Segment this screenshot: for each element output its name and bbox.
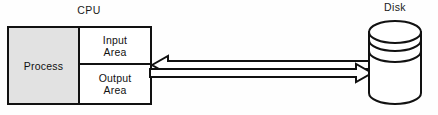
- io-column: Input Area Output Area: [80, 28, 150, 103]
- input-area-label-line1: Input: [103, 34, 127, 46]
- output-area-cell: Output Area: [80, 65, 150, 103]
- output-area-label-line1: Output: [99, 72, 132, 84]
- output-area-label-line2: Area: [104, 84, 127, 96]
- disk-top-platter: [369, 21, 421, 43]
- cpu-label: CPU: [61, 4, 117, 16]
- process-cell: Process: [9, 28, 80, 103]
- disk-label: Disk: [367, 1, 423, 13]
- disk-cylinder: [363, 18, 427, 110]
- input-area-label-line2: Area: [104, 46, 127, 58]
- input-area-cell: Input Area: [80, 28, 150, 65]
- diagram-canvas: CPU Disk Process Input Area Output Area: [0, 0, 438, 115]
- cpu-box: Process Input Area Output Area: [7, 26, 152, 105]
- transfer-arrows: [148, 48, 376, 84]
- process-label: Process: [24, 60, 63, 72]
